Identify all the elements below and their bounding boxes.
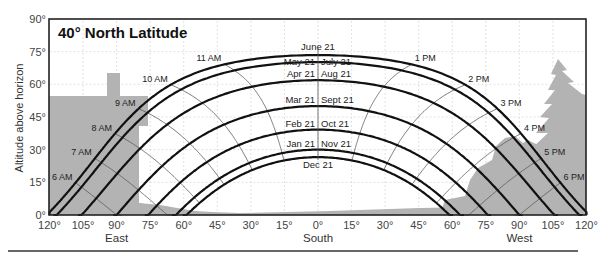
hour-label: 7 AM: [71, 147, 92, 157]
x-tick-label: 75°: [142, 219, 159, 231]
x-tick-label: 90°: [108, 219, 125, 231]
x-tick-label: 0°: [313, 219, 324, 231]
x-tick-label: 60°: [175, 219, 192, 231]
hour-label: 6 AM: [52, 172, 73, 182]
date-label-right: Nov 21: [321, 138, 351, 149]
hour-line: [140, 109, 224, 185]
direction-labels: EastSouthWest: [105, 232, 533, 244]
direction-label-east: East: [105, 232, 129, 244]
hour-label: 5 PM: [544, 147, 565, 157]
x-tick-label: 120°: [575, 219, 598, 231]
date-label-right: Sept 21: [321, 94, 354, 105]
x-tick-label: 75°: [477, 219, 494, 231]
hour-label: 3 PM: [500, 98, 521, 108]
x-tick-label: 45°: [410, 219, 427, 231]
x-tick-label: 105°: [72, 219, 95, 231]
y-axis-label: Altitude above horizon: [13, 64, 25, 173]
direction-label-west: West: [506, 232, 533, 244]
obstructions: [49, 59, 586, 215]
hour-label: 10 AM: [142, 74, 168, 84]
y-tick-label: 30°: [29, 144, 46, 156]
x-tick-label: 30°: [377, 219, 394, 231]
hour-label: 8 AM: [92, 123, 113, 133]
date-label-right: July 21: [321, 56, 351, 67]
x-tick-label: 105°: [542, 219, 565, 231]
x-tick-label: 120°: [38, 219, 61, 231]
hour-label: 9 AM: [115, 98, 136, 108]
x-axis-ticks: 120°105°90°75°60°45°30°15°0°15°30°45°60°…: [38, 219, 598, 231]
date-label-left: Mar 21: [285, 94, 315, 105]
y-tick-label: 60°: [29, 78, 46, 90]
date-label-right: Oct 21: [321, 118, 349, 129]
date-label-right: Aug 21: [321, 68, 351, 79]
hour-label: 4 PM: [524, 123, 545, 133]
date-label: Dec 21: [303, 159, 333, 170]
date-label-left: Apr 21: [287, 68, 315, 79]
chimney: [107, 73, 120, 96]
sun-path-chart: 6 AM7 AM8 AM9 AM10 AM11 AM1 PM2 PM3 PM4 …: [0, 0, 606, 259]
date-label-left: Feb 21: [285, 118, 315, 129]
x-tick-label: 30°: [243, 219, 260, 231]
chart-title: 40° North Latitude: [58, 24, 187, 41]
direction-label-south: South: [303, 232, 333, 244]
date-label-left: Jan 21: [286, 138, 315, 149]
y-tick-label: 15°: [29, 176, 46, 188]
x-tick-label: 15°: [276, 219, 293, 231]
x-tick-label: 15°: [343, 219, 360, 231]
hour-label: 6 PM: [563, 172, 584, 182]
y-axis-ticks: 0°15°30°45°60°75°90°: [29, 13, 46, 221]
x-tick-label: 60°: [444, 219, 461, 231]
x-tick-label: 45°: [209, 219, 226, 231]
hour-label: 1 PM: [415, 53, 436, 63]
y-tick-label: 45°: [29, 111, 46, 123]
hour-label: 11 AM: [196, 53, 221, 63]
hour-label: 2 PM: [468, 74, 489, 84]
x-tick-label: 90°: [511, 219, 528, 231]
y-tick-label: 90°: [29, 13, 46, 25]
date-label-left: May 21: [284, 56, 315, 67]
y-tick-label: 75°: [29, 46, 46, 58]
